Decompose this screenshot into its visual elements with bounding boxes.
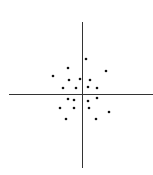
data-points — [52, 58, 111, 121]
data-point — [65, 118, 68, 121]
data-point — [79, 78, 82, 81]
data-point — [96, 97, 99, 100]
data-point — [96, 87, 99, 90]
data-point — [73, 99, 76, 102]
scatter-plot — [0, 0, 153, 175]
data-point — [67, 67, 70, 70]
data-point — [88, 107, 91, 110]
data-point — [95, 118, 98, 121]
data-point — [87, 100, 90, 103]
data-point — [87, 86, 90, 89]
data-point — [89, 79, 92, 82]
data-point — [62, 87, 65, 90]
data-point — [73, 107, 76, 110]
data-point — [67, 98, 70, 101]
data-point — [85, 58, 88, 61]
data-point — [68, 79, 71, 82]
data-point — [52, 75, 55, 78]
data-point — [59, 107, 62, 110]
data-point — [105, 70, 108, 73]
data-point — [108, 111, 111, 114]
data-point — [75, 87, 78, 90]
